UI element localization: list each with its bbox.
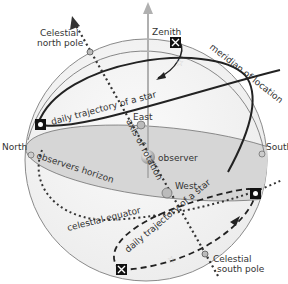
bottom-star-box-icon [116,264,127,275]
zenith-arrow-head [143,2,153,14]
celestial-north-pole-marker [87,49,93,55]
celestial-north-pole-label-2: north pole [37,38,84,48]
celestial-south-pole-marker [202,251,208,257]
diagram-canvas: ☆ ☆ Zenith Celestial north pole Celestia… [0,0,288,284]
celestial-south-pole-label-1: Celestial [213,254,252,264]
lower-star-outline-icon: ☆ [167,254,176,265]
observer-label: observer [158,153,198,163]
upper-star-box-icon [35,119,46,130]
zenith-label: Zenith [152,27,181,37]
south-label: South [266,142,288,152]
east-label: East [133,112,153,122]
west-marker [162,188,172,198]
celestial-south-pole-label-2: south pole [217,264,265,274]
celestial-north-pole-label-1: Celestial [40,28,79,38]
south-marker [259,151,265,157]
zenith-star-box-icon [170,37,181,48]
lower-star-box-icon [250,188,261,199]
north-label: North [2,142,27,152]
north-marker [28,152,34,158]
zenith-star-outline-icon: ☆ [175,57,184,68]
celestial-sphere-diagram: ☆ ☆ Zenith Celestial north pole Celestia… [0,0,288,284]
